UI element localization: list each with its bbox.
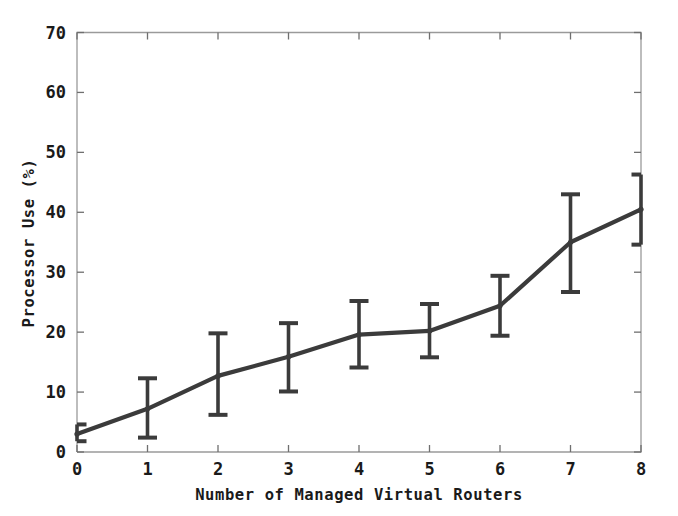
x-tick-label-2: 2 bbox=[213, 459, 223, 479]
chart-figure: 012345678 010203040506070 Number of Mana… bbox=[0, 0, 678, 516]
x-tick-label-3: 3 bbox=[283, 459, 293, 479]
y-tick-label-20: 20 bbox=[46, 322, 66, 342]
data-point-x1 bbox=[145, 406, 150, 411]
x-tick-label-1: 1 bbox=[142, 459, 152, 479]
x-tick-label-4: 4 bbox=[354, 459, 364, 479]
y-tick-label-30: 30 bbox=[46, 262, 66, 282]
y-tick-label-10: 10 bbox=[46, 382, 66, 402]
data-point-x5 bbox=[427, 328, 432, 333]
x-tick-label-6: 6 bbox=[495, 459, 505, 479]
x-tick-label-8: 8 bbox=[636, 459, 646, 479]
x-axis-label: Number of Managed Virtual Routers bbox=[195, 486, 523, 504]
data-point-x6 bbox=[497, 303, 502, 308]
data-point-x3 bbox=[286, 354, 291, 359]
y-tick-label-0: 0 bbox=[56, 442, 66, 462]
y-tick-label-40: 40 bbox=[46, 202, 66, 222]
x-tick-label-5: 5 bbox=[424, 459, 434, 479]
x-tick-label-0: 0 bbox=[72, 459, 82, 479]
y-tick-label-70: 70 bbox=[46, 23, 66, 43]
y-tick-label-50: 50 bbox=[46, 142, 66, 162]
data-point-x4 bbox=[356, 332, 361, 337]
data-point-x8 bbox=[638, 207, 643, 212]
y-tick-label-60: 60 bbox=[46, 82, 66, 102]
line-chart-plot: 012345678 010203040506070 Number of Mana… bbox=[0, 0, 678, 516]
data-point-x2 bbox=[215, 373, 220, 378]
y-axis-label: Processor Use (%) bbox=[20, 159, 38, 328]
data-point-x0 bbox=[74, 431, 79, 436]
x-tick-label-7: 7 bbox=[565, 459, 575, 479]
data-point-x7 bbox=[568, 240, 573, 245]
chart-background bbox=[0, 0, 678, 516]
